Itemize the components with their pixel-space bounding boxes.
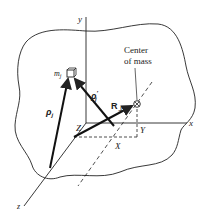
y-axis-label: y: [77, 14, 82, 24]
rigid-body-outline: [15, 24, 195, 179]
center-of-mass-icon: [134, 101, 141, 108]
x-axis-label: x: [188, 118, 193, 128]
z-axis-label: z: [16, 202, 21, 211]
center-of-mass-label-line2: of mass: [124, 56, 152, 66]
r-perp-label: R⊥: [111, 101, 124, 112]
y-coordinate-label: Y: [140, 125, 146, 135]
rho-j-label: ρj: [45, 107, 53, 118]
diagram-canvas: y x z mj ρj ρ′j R⊥ Center of mass Z Y X: [0, 0, 199, 223]
center-of-mass-leader-line: [135, 68, 137, 100]
particle-box-icon: [67, 68, 76, 77]
z-coordinate-label: Z: [76, 123, 82, 133]
particle-mass-label: mj: [54, 69, 62, 79]
rho-j-vector: [50, 79, 68, 168]
center-of-mass-label-line1: Center: [124, 45, 148, 55]
x-coordinate-label: X: [114, 141, 121, 151]
rho-prime-j-label: ρ′j: [90, 90, 98, 102]
